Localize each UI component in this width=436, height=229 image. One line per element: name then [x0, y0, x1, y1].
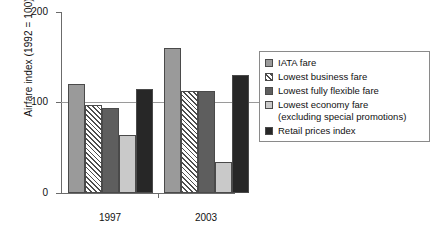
legend-swatch-lowest-economy-fare-icon [265, 101, 273, 109]
bar-1997-lowest-business-fare [85, 105, 102, 193]
bar-1997-lowest-economy-fare [119, 135, 136, 193]
y-tick-0-mark: 0 [56, 193, 61, 194]
legend-swatch-iata-fare-icon [265, 59, 273, 67]
legend-swatch-lowest-fully-flexible-fare-icon [265, 87, 273, 95]
bar-1997-lowest-fully-flexible-fare [102, 108, 119, 193]
y-tick-200-mark: 200 [56, 12, 61, 13]
legend-label-lowest-fully-flexible-fare: Lowest fully flexible fare [278, 85, 379, 97]
y-tick-label-200: 200 [31, 7, 48, 17]
x-group-label-2003: 2003 [176, 212, 236, 223]
legend-swatch-retail-prices-index-icon [265, 127, 273, 135]
legend-label-retail-prices-index: Retail prices index [278, 125, 356, 137]
legend-swatch-lowest-business-fare-icon [265, 73, 273, 81]
legend-item-lowest-fully-flexible-fare: Lowest fully flexible fare [265, 85, 423, 97]
x-axis-line [61, 193, 235, 194]
bar-1997-iata-fare [68, 84, 85, 193]
legend-item-iata-fare: IATA fare [265, 57, 423, 69]
legend-item-lowest-business-fare: Lowest business fare [265, 71, 423, 83]
chart-legend: IATA fare Lowest business fare Lowest fu… [259, 51, 430, 142]
plot-area: 200 100 0 1997 2003 [61, 12, 233, 193]
y-tick-label-0: 0 [42, 188, 48, 198]
legend-item-retail-prices-index: Retail prices index [265, 125, 423, 137]
legend-item-lowest-economy-fare: Lowest economy fare (excluding special p… [265, 99, 423, 122]
x-group-separator-tick [158, 193, 159, 198]
legend-label-lowest-business-fare: Lowest business fare [278, 71, 367, 83]
bar-2003-lowest-fully-flexible-fare [198, 91, 215, 193]
x-group-label-1997: 1997 [80, 212, 140, 223]
bar-2003-lowest-economy-fare [215, 162, 232, 193]
airfare-index-bar-chart: Airfare index (1992 = 100) 200 100 0 199… [0, 0, 436, 229]
y-axis-title: Airfare index (1992 = 100) [23, 0, 34, 138]
legend-label-iata-fare: IATA fare [278, 57, 316, 69]
bar-1997-retail-prices-index [136, 89, 153, 193]
bar-2003-iata-fare [164, 48, 181, 193]
y-tick-label-100: 100 [31, 97, 48, 107]
bar-2003-lowest-business-fare [181, 91, 198, 193]
bar-2003-retail-prices-index [232, 75, 249, 193]
legend-label-lowest-economy-fare: Lowest economy fare (excluding special p… [278, 99, 406, 122]
y-axis-line [61, 12, 62, 194]
